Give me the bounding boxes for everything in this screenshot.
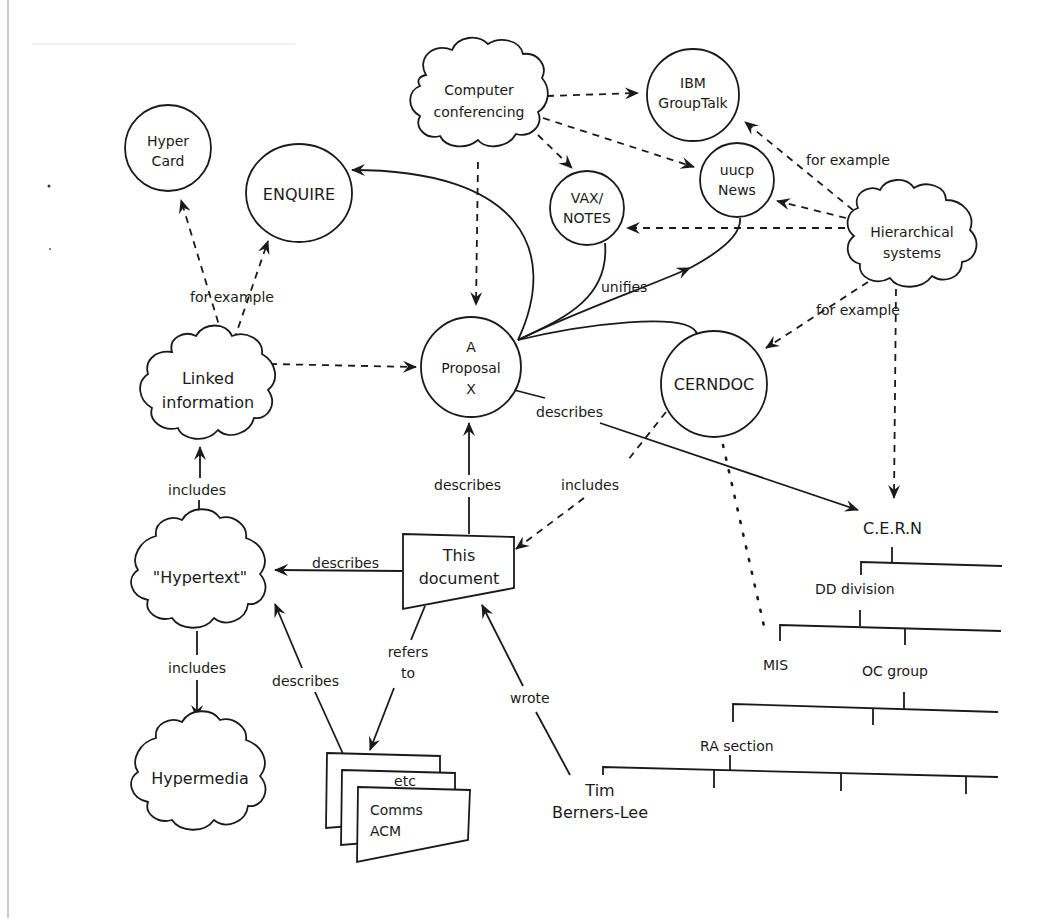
label-describes-hypertext: describes [312,555,379,571]
node-cerndoc: CERNDOC [661,331,767,437]
label-includes-hypermedia: includes [168,660,226,676]
edge-doc-refers-a [411,606,425,640]
node-hypertext: "Hypertext" [131,509,265,628]
node-linked-line1: Linked [182,369,234,388]
edge-linked-to-proposal [270,364,416,367]
edge-tim-wrote-b [482,605,523,686]
node-stack-etc: etc [394,773,416,789]
label-unifies: unifies [601,279,647,295]
node-ibm-grouptalk: IBM GroupTalk [647,49,739,141]
node-mis: MIS [763,657,788,673]
node-proposal-line2: Proposal [441,360,500,376]
edge-linked-to-hypercard [181,200,222,335]
edge-cerndoc-includes-doc [628,412,666,460]
node-uucp-news: uucp News [700,143,774,217]
node-comms-acm-stack: etc Comms ACM [326,753,470,862]
node-linked-information: Linked information [140,326,275,439]
speck [48,185,51,188]
edge-proposal-to-cerndoc [518,321,697,340]
node-grouptalk-line2: GroupTalk [658,95,728,111]
node-vax-line1: VAX/ [571,190,604,206]
edge-conf-to-grouptalk [547,93,638,96]
edge-proposal-describes-a [514,390,545,398]
edge-hier-to-uucp [777,201,846,218]
edge-proposal-to-enquire [352,170,533,340]
node-hypercard-line2: Card [152,153,185,169]
edge-conf-to-proposal [476,162,478,305]
node-cerndoc-label: CERNDOC [674,375,754,394]
node-proposal: A Proposal X [421,317,521,417]
edge-proposal-describes-b [600,423,858,510]
edge-comms-describes-b [275,604,302,668]
node-grouptalk-line1: IBM [680,75,706,91]
edge-cerndoc-includes-doc-lower [516,498,584,549]
edge-comms-describes-a [315,692,344,756]
node-linked-line2: information [162,393,254,412]
node-doc-line1: This [442,546,476,565]
node-tim-line2: Berners-Lee [552,803,648,822]
node-comms-line1: Comms [370,802,423,818]
node-hier-line1: Hierarchical [870,224,953,240]
node-conf-line1: Computer [444,82,514,98]
node-hypercard-line1: Hyper [147,133,189,149]
node-enquire: ENQUIRE [246,144,352,242]
node-hypercard: Hyper Card [125,105,211,191]
node-ra-section: RA section [700,738,774,754]
label-describes-proposal: describes [434,477,501,493]
node-enquire-label: ENQUIRE [263,185,335,204]
label-wrote: wrote [510,690,550,706]
node-hypermedia: Hypermedia [131,711,265,830]
edge-conf-to-vax [538,135,572,168]
node-oc-group: OC group [862,663,928,679]
node-dd-division: DD division [815,581,895,597]
label-describes-comms: describes [272,673,339,689]
edge-tim-wrote-a [536,712,570,775]
node-hierarchical-systems: Hierarchical systems [848,180,977,287]
label-describes-cern: describes [536,404,603,420]
node-cern: C.E.R.N [863,519,922,538]
edge-uucp-tail [690,218,740,268]
label-refers: refers [388,644,429,660]
node-proposal-line1: A [466,339,476,355]
label-includes-linked: includes [168,482,226,498]
proposal-concept-diagram: Hyper Card ENQUIRE IBM GroupTalk VAX/ NO… [0,0,1054,920]
node-uucp-line1: uucp [720,162,754,178]
label-for-example-grouptalk: for example [806,152,890,168]
edge-hier-to-cern [894,289,896,498]
label-to: to [401,665,415,681]
node-this-document: This document [403,534,514,609]
node-vax-line2: NOTES [563,210,611,226]
node-vax-notes: VAX/ NOTES [550,171,624,245]
node-conf-line2: conferencing [434,104,525,120]
node-doc-line2: document [419,569,500,588]
cern-org-tree [603,547,1002,794]
node-hypermedia-label: Hypermedia [151,769,249,788]
node-proposal-line3: X [466,381,476,397]
node-hier-line2: systems [883,245,941,261]
edge-cerndoc-mis [723,445,766,635]
node-tim-line1: Tim [584,781,614,800]
label-includes-cerndoc: includes [561,477,619,493]
speck [49,248,51,250]
node-hypertext-label: "Hypertext" [153,568,247,587]
node-computer-conferencing: Computer conferencing [410,38,548,147]
node-comms-line2: ACM [370,823,401,839]
label-for-example-linked: for example [190,289,274,305]
edge-doc-refers-b [370,688,394,750]
label-for-example-cerndoc: for example [816,302,900,318]
node-uucp-line2: News [718,182,756,198]
